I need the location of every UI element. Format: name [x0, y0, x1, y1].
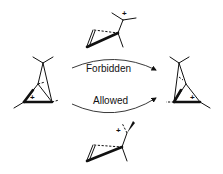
right-charge: +	[190, 93, 195, 102]
top-charge: +	[122, 9, 127, 18]
bottom-charge: +	[116, 126, 121, 135]
forbidden-label: Forbidden	[86, 63, 131, 74]
top-structure: +	[87, 9, 136, 47]
reaction-diagram: + + + +	[0, 0, 223, 174]
bottom-structure: +	[87, 121, 135, 161]
left-structure: +	[14, 57, 59, 108]
right-structure: +	[166, 57, 210, 108]
left-charge: +	[30, 93, 35, 102]
allowed-label: Allowed	[93, 95, 128, 106]
